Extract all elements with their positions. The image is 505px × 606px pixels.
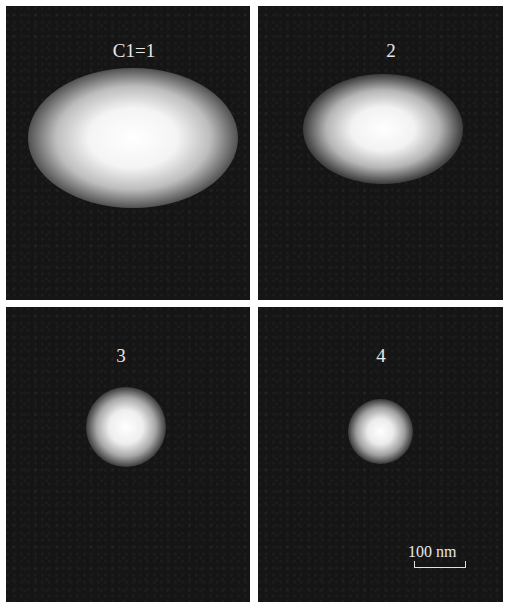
scale-bar <box>414 561 466 568</box>
panel-3: 3 <box>6 307 250 602</box>
bright-spot <box>28 68 238 208</box>
bright-spot <box>303 74 463 184</box>
bright-spot <box>348 399 413 464</box>
panel-label: 4 <box>376 345 386 367</box>
panel-label: C1=1 <box>113 40 155 62</box>
panel-2: 2 <box>258 6 503 300</box>
panel-1: C1=1 <box>6 6 250 300</box>
scale-bar-label: 100 nm <box>408 543 456 561</box>
panel-label: 2 <box>386 40 396 62</box>
panel-4: 4 100 nm <box>258 307 503 602</box>
bright-spot <box>86 387 166 467</box>
panel-label: 3 <box>116 345 126 367</box>
